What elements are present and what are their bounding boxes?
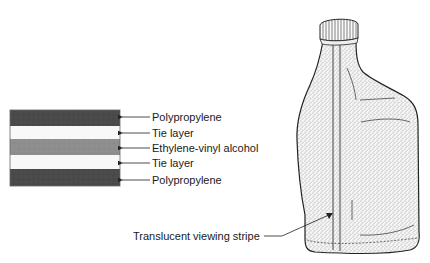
stripe-callout-label: Translucent viewing stripe [133,230,260,242]
layer-label-evoh: Ethylene-vinyl alcohol [152,142,258,154]
layer-label-tie-bottom: Tie layer [152,157,194,169]
diagram-graphics [0,0,430,263]
bottle-illustration [297,19,419,253]
diagram-stage: Polypropylene Tie layer Ethylene-vinyl a… [0,0,430,263]
layer-polypropylene-bottom [10,169,120,186]
layer-arrows [122,117,150,180]
layer-tie-top [10,126,120,139]
layer-tie-bottom [10,155,120,169]
layer-label-polypropylene-bottom: Polypropylene [152,174,222,186]
layer-evoh [10,139,120,155]
layer-label-tie-top: Tie layer [152,127,194,139]
layer-polypropylene-top [10,110,120,126]
bottle-cap [320,19,358,45]
layer-label-polypropylene-top: Polypropylene [152,111,222,123]
layer-stack [10,110,120,186]
